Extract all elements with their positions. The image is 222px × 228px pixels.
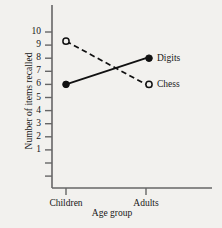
x-tick-label-children: Children bbox=[36, 198, 96, 208]
data-point-chess-children bbox=[63, 38, 69, 44]
recall-by-age-line-chart: 10 9 8 7 6 5 4 3 2 1 Number of items rec… bbox=[0, 0, 222, 228]
data-point-chess-adults bbox=[146, 81, 152, 87]
y-axis-title: Number of items recalled bbox=[24, 26, 34, 176]
data-point-digits-adults bbox=[146, 55, 153, 62]
x-axis-ticks bbox=[66, 188, 146, 195]
data-point-digits-children bbox=[63, 81, 70, 88]
legend-label-chess: Chess bbox=[157, 79, 180, 89]
x-tick-label-adults: Adults bbox=[118, 198, 174, 208]
legend-label-digits: Digits bbox=[157, 53, 180, 63]
y-axis-ticks bbox=[45, 32, 52, 176]
x-axis-title: Age group bbox=[52, 208, 172, 218]
